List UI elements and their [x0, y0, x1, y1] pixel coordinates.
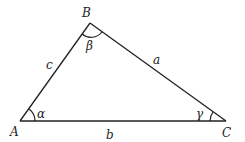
side-a [90, 23, 226, 121]
side-label-b: b [106, 128, 114, 142]
side-c [20, 23, 90, 121]
side-label-c: c [46, 58, 53, 72]
vertex-label-a: A [9, 125, 19, 139]
angle-arc-beta [82, 32, 102, 37]
vertex-label-c: C [222, 126, 231, 140]
vertex-label-b: B [81, 6, 91, 20]
side-label-a: a [153, 53, 160, 67]
angle-arc-gamma [210, 112, 213, 121]
angle-label-beta: β [85, 39, 93, 53]
angle-arc-alpha [29, 109, 35, 121]
angle-label-gamma: γ [196, 107, 204, 121]
angle-label-alpha: α [37, 107, 45, 121]
triangle-diagram: B A C c a b α β γ [0, 0, 245, 142]
